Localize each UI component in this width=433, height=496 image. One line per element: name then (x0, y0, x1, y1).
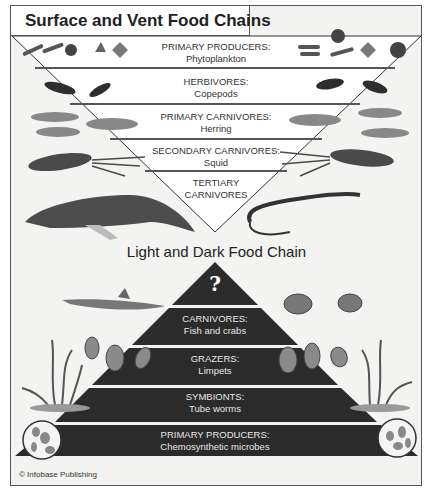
level-organism: Limpets (191, 365, 240, 377)
surface-level-primary-producers: PRIMARY PRODUCERS: Phytoplankton (162, 41, 271, 65)
vent-level-carnivores: CARNIVORES: Fish and crabs (182, 313, 247, 337)
surface-level-tertiary-carnivores: TERTIARY CARNIVORES (185, 177, 248, 201)
whale-icon (25, 195, 195, 240)
crab-icon (284, 294, 362, 314)
unknown-apex-label: ? (209, 272, 221, 296)
level-heading: PRIMARY PRODUCERS: (162, 41, 271, 53)
level-organism: Phytoplankton (162, 53, 271, 65)
eel-icon (249, 194, 360, 235)
level-organism: Herring (160, 123, 271, 135)
level-heading: PRIMARY CARNIVORES: (160, 111, 271, 123)
level-heading: PRIMARY PRODUCERS: (160, 429, 269, 441)
level-organism: CARNIVORES (185, 189, 248, 201)
level-heading: GRAZERS: (191, 353, 240, 365)
level-organism: Squid (152, 157, 280, 169)
deep-fish-icon (62, 288, 165, 310)
level-organism: Copepods (184, 88, 249, 100)
level-organism: Fish and crabs (182, 325, 247, 337)
page-title: Surface and Vent Food Chains (25, 11, 271, 31)
vent-level-primary-producers: PRIMARY PRODUCERS: Chemosynthetic microb… (160, 429, 269, 453)
surface-level-primary-carnivores: PRIMARY CARNIVORES: Herring (160, 111, 271, 135)
title-box: Surface and Vent Food Chains (10, 5, 250, 36)
surface-level-herbivores: HERBIVORES: Copepods (184, 76, 249, 100)
copyright-credit: © Infobase Publishing (19, 470, 97, 479)
level-organism: Tube worms (186, 403, 245, 415)
level-heading: SYMBIONTS: (186, 391, 245, 403)
level-heading: CARNIVORES: (182, 313, 247, 325)
level-heading: HERBIVORES: (184, 76, 249, 88)
level-heading: TERTIARY (185, 177, 248, 189)
surface-level-secondary-carnivores: SECONDARY CARNIVORES: Squid (152, 145, 280, 169)
vent-level-symbionts: SYMBIONTS: Tube worms (186, 391, 245, 415)
vent-chain-title: Light and Dark Food Chain (127, 243, 306, 260)
level-heading: SECONDARY CARNIVORES: (152, 145, 280, 157)
vent-level-grazers: GRAZERS: Limpets (191, 353, 240, 377)
level-organism: Chemosynthetic microbes (160, 441, 269, 453)
